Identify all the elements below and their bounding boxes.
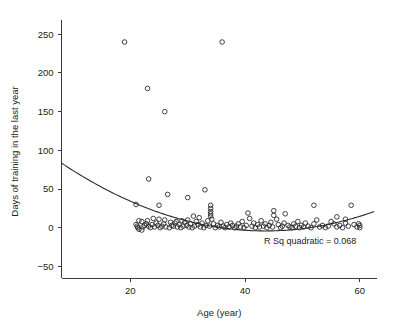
y-axis-title: Days of training in the last year [9,86,20,216]
r-squared-annotation: R Sq quadratic = 0.068 [264,236,356,246]
x-tick-label: 40 [240,285,251,296]
y-tick-label: −50 [37,261,53,272]
plot-canvas: −50050100150200250 204060 R Sq quadratic… [0,0,403,328]
figure-background [0,0,403,328]
y-tick-label: 250 [38,29,54,40]
y-tick-label: 0 [48,222,53,233]
y-tick-label: 150 [38,106,54,117]
y-tick-label: 50 [43,183,54,194]
y-tick-label: 200 [38,67,54,78]
y-tick-label: 100 [38,145,54,156]
x-tick-label: 60 [355,285,366,296]
x-axis-title: Age (year) [197,307,241,318]
x-tick-label: 20 [125,285,136,296]
scatter-plot-figure: −50050100150200250 204060 R Sq quadratic… [0,0,403,328]
